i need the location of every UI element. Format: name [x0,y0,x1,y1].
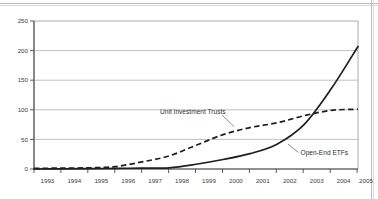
x-tick-label-1999: 1999 [202,177,216,184]
x-tick-marks [34,169,357,173]
series-label-open-end-etfs: Open-End ETFs [301,149,349,157]
plot-area-frame [34,21,358,169]
x-tick-label-2003: 2003 [310,177,324,184]
chart-figure: 250 200 150 100 50 0 1993 1994 [0,0,378,199]
x-tick-label-1995: 1995 [94,177,108,184]
y-tick-label-0: 0 [25,165,29,172]
x-tick-label-1997: 1997 [148,177,162,184]
x-tick-label-1998: 1998 [175,177,189,184]
x-tick-label-2005: 2005 [359,177,373,184]
x-tick-label-2004: 2004 [337,177,351,184]
y-tick-marks [30,21,34,169]
y-tick-label-200: 200 [18,47,29,54]
x-tick-label-1993: 1993 [41,177,55,184]
line-chart: 250 200 150 100 50 0 1993 1994 [0,0,378,199]
y-tick-label-250: 250 [18,17,29,24]
x-tick-label-1996: 1996 [121,177,135,184]
y-tick-label-100: 100 [18,106,29,113]
x-tick-label-2002: 2002 [283,177,297,184]
y-tick-label-50: 50 [21,136,28,143]
x-tick-label-2001: 2001 [256,177,270,184]
series-label-unit-investment-trusts: Unit Investment Trusts [160,108,226,115]
leader-line-open-end-etfs [288,144,299,153]
y-tick-label-150: 150 [18,76,29,83]
y-tick-labels: 250 200 150 100 50 0 [18,17,29,172]
x-tick-label-1994: 1994 [67,177,81,184]
gridlines [34,51,358,140]
leader-line-unit-investment-trusts [222,115,234,127]
x-tick-label-2000: 2000 [229,177,243,184]
x-tick-labels: 1993 1994 1995 1996 1997 1998 1999 2000 … [41,177,374,184]
